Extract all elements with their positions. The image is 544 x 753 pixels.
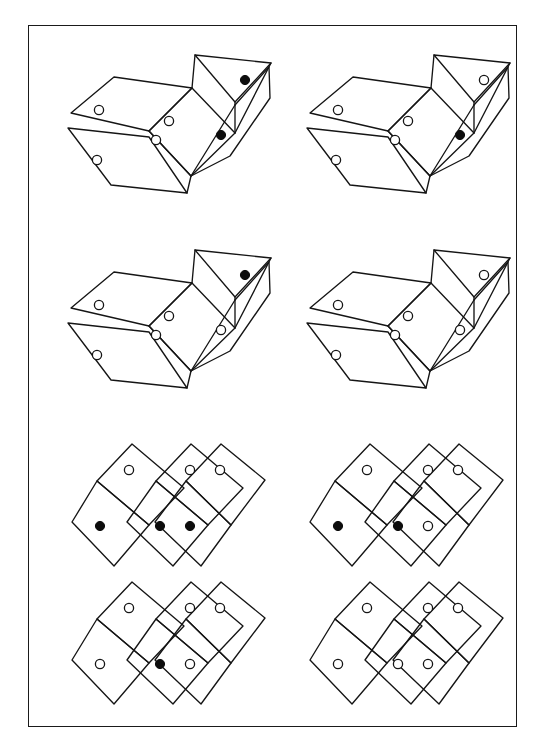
- pip-open: [403, 311, 412, 320]
- diamond-upper-3: [424, 582, 503, 663]
- pip-open: [215, 465, 224, 474]
- pip-open: [95, 659, 104, 668]
- pip-open: [151, 330, 160, 339]
- diamond-upper-2: [156, 444, 243, 525]
- diamond-upper-2: [156, 582, 243, 663]
- panel-2-net: Partially folded cube net, top-right: [296, 36, 511, 201]
- pip-open: [455, 325, 464, 334]
- diamond-upper-1: [97, 444, 184, 525]
- diamond-upper-2: [394, 444, 481, 525]
- panel-7-net: Flat diamond cube net, bottom-left: [71, 576, 266, 711]
- diamond-upper-1: [97, 582, 184, 663]
- pip-open: [94, 300, 103, 309]
- pip-open: [390, 135, 399, 144]
- pip-filled: [393, 521, 402, 530]
- pip-open: [423, 603, 432, 612]
- pip-open: [333, 300, 342, 309]
- pip-open: [453, 603, 462, 612]
- panel-3-net: Partially folded cube net, middle-left: [57, 231, 272, 396]
- pip-open: [185, 659, 194, 668]
- pip-open: [362, 465, 371, 474]
- diamond-upper-3: [424, 444, 503, 525]
- diamond-lower-2: [365, 619, 446, 704]
- diamond-lower-2: [365, 481, 446, 566]
- figure-root: Partially folded cube net, top-left Part…: [0, 0, 544, 753]
- diamond-lower-1: [310, 481, 387, 566]
- pip-filled: [240, 270, 249, 279]
- pip-open: [479, 270, 488, 279]
- pip-filled: [155, 659, 164, 668]
- face-lower-left-flap: [68, 323, 187, 388]
- pip-open: [124, 603, 133, 612]
- pip-open: [333, 105, 342, 114]
- face-lower-left-flap: [68, 128, 187, 193]
- pip-filled: [185, 521, 194, 530]
- pip-open: [185, 465, 194, 474]
- figure-frame-border: Partially folded cube net, top-left Part…: [28, 25, 517, 727]
- pip-open: [390, 330, 399, 339]
- face-right-lower-flap: [430, 262, 509, 371]
- pip-filled: [216, 130, 225, 139]
- diamond-lower-1: [72, 481, 149, 566]
- pip-open: [124, 465, 133, 474]
- pip-open: [453, 465, 462, 474]
- pip-open: [333, 659, 342, 668]
- panel-1-net: Partially folded cube net, top-left: [57, 36, 272, 201]
- diamond-lower-1: [310, 619, 387, 704]
- diamond-upper-1: [335, 582, 422, 663]
- pip-open: [423, 465, 432, 474]
- pip-open: [216, 325, 225, 334]
- pip-open: [151, 135, 160, 144]
- pip-open: [423, 521, 432, 530]
- pip-filled: [95, 521, 104, 530]
- pip-open: [393, 659, 402, 668]
- pip-open: [164, 116, 173, 125]
- face-top-rear: [192, 55, 271, 133]
- pip-filled: [455, 130, 464, 139]
- pip-open: [362, 603, 371, 612]
- diamond-lower-1: [72, 619, 149, 704]
- pip-open: [92, 350, 101, 359]
- diamond-lower-2: [127, 481, 208, 566]
- panel-4-net: Partially folded cube net, middle-right: [296, 231, 511, 396]
- face-right-lower-flap: [430, 67, 509, 176]
- figure-caption: Cube net diagrams with marked face pips: [0, 0, 1, 1]
- diamond-upper-3: [186, 582, 265, 663]
- pip-open: [331, 155, 340, 164]
- pip-open: [92, 155, 101, 164]
- panel-6-net: Flat diamond cube net, third row right: [309, 438, 504, 573]
- face-top-rear: [431, 250, 510, 328]
- pip-open: [185, 603, 194, 612]
- pip-filled: [240, 75, 249, 84]
- pip-open: [164, 311, 173, 320]
- pip-open: [479, 75, 488, 84]
- pip-open: [403, 116, 412, 125]
- pip-open: [331, 350, 340, 359]
- pip-open: [94, 105, 103, 114]
- diamond-upper-1: [335, 444, 422, 525]
- pip-open: [423, 659, 432, 668]
- pip-filled: [155, 521, 164, 530]
- face-top-rear: [192, 250, 271, 328]
- panel-5-net: Flat diamond cube net, third row left: [71, 438, 266, 573]
- face-right-lower-flap: [191, 262, 270, 371]
- panel-8-net: Flat diamond cube net, bottom-right: [309, 576, 504, 711]
- diamond-upper-3: [186, 444, 265, 525]
- pip-filled: [333, 521, 342, 530]
- pip-open: [215, 603, 224, 612]
- face-lower-left-flap: [307, 323, 426, 388]
- diamond-lower-2: [127, 619, 208, 704]
- face-top-rear: [431, 55, 510, 133]
- face-right-lower-flap: [191, 67, 270, 176]
- diamond-upper-2: [394, 582, 481, 663]
- face-lower-left-flap: [307, 128, 426, 193]
